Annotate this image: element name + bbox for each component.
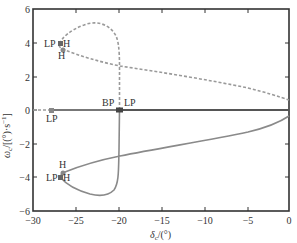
label-h-upper-2: H	[58, 50, 65, 61]
x-tick-label: −25	[68, 215, 84, 226]
label-lp-bp: LP	[124, 97, 136, 108]
y-tick-label: −6	[19, 206, 30, 217]
y-tick-label: −2	[19, 139, 30, 150]
label-h-upper-1: H	[63, 38, 70, 49]
x-tick-label: −20	[111, 215, 127, 226]
x-tick-label: −10	[197, 215, 213, 226]
x-axis-label: δc/(°)	[150, 229, 171, 242]
y-tick-label: 0	[25, 105, 30, 116]
label-h-lower-1: H	[59, 159, 66, 170]
label-h-lower-2: H	[63, 172, 70, 183]
bifurcation-chart: −30 −25 −20 −15 −10 −5 0 6 4 2 0 −2 −4 −…	[0, 0, 297, 243]
lower-branch-solid	[61, 110, 289, 195]
y-tick-label: 6	[25, 4, 30, 15]
y-tick-labels: 6 4 2 0 −2 −4 −6	[19, 4, 30, 217]
y-tick-label: −4	[19, 172, 30, 183]
label-lp-lower: LP	[46, 172, 58, 183]
x-tick-label: −5	[243, 215, 254, 226]
upper-branch-dashed	[59, 23, 289, 110]
x-tick-label: −15	[154, 215, 170, 226]
label-lp-zero: LP	[46, 113, 58, 124]
bp-lp-marker	[116, 108, 123, 113]
y-tick-label: 4	[25, 38, 30, 49]
label-lp-upper: LP	[44, 38, 56, 49]
y-tick-label: 2	[25, 72, 30, 83]
y-axis-label: ωc/[(°)·s−1]	[0, 113, 14, 158]
label-bp: BP	[102, 97, 115, 108]
x-tick-labels: −30 −25 −20 −15 −10 −5 0	[25, 215, 291, 226]
x-tick-label: 0	[287, 215, 292, 226]
